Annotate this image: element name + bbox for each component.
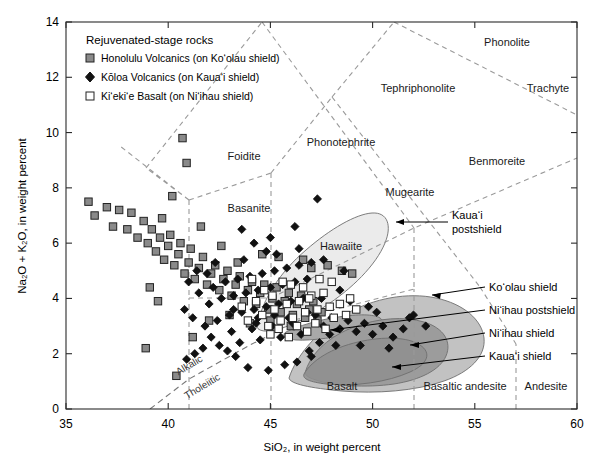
field-label-basalt: Basalt xyxy=(327,380,358,392)
data-point xyxy=(316,275,323,282)
x-tick-label: 55 xyxy=(468,417,482,431)
data-point xyxy=(128,209,135,216)
field-label-hawaiite: Hawaiite xyxy=(320,240,362,252)
figure-background xyxy=(0,0,592,471)
data-point xyxy=(187,245,194,252)
x-axis-title: SiO₂, in weight percent xyxy=(264,441,382,453)
data-point xyxy=(179,134,186,141)
field-label-basanite: Basanite xyxy=(228,202,271,214)
data-point xyxy=(165,242,172,249)
y-tick-label: 2 xyxy=(52,347,59,361)
data-point xyxy=(277,317,284,324)
data-point xyxy=(275,325,282,332)
field-label-phonolite: Phonolite xyxy=(484,36,530,48)
field-label-phonotephrite: Phonotephrite xyxy=(307,136,376,148)
data-point xyxy=(124,226,131,233)
data-point xyxy=(330,314,337,321)
data-point xyxy=(265,322,272,329)
legend-label-koloa-volcanics: Kōloa Volcanics (on Kaua‘i shield) xyxy=(101,71,259,83)
data-point xyxy=(115,206,122,213)
field-label-andesite: Andesite xyxy=(525,380,568,392)
y-tick-label: 14 xyxy=(46,15,60,29)
data-point xyxy=(152,248,159,255)
legend-title: Rejuvenated-stage rocks xyxy=(86,34,213,46)
x-tick-label: 40 xyxy=(162,417,176,431)
data-point xyxy=(146,284,153,291)
data-point xyxy=(303,328,310,335)
data-point xyxy=(185,259,192,266)
field-label-mugearite: Mugearite xyxy=(386,186,435,198)
data-point xyxy=(109,223,116,230)
data-point xyxy=(218,242,225,249)
data-point xyxy=(244,317,251,324)
data-point xyxy=(348,270,355,277)
field-label-tephriphonolite: Tephriphonolite xyxy=(381,82,456,94)
legend-label-kiekie-basalt: Ki‘eki‘e Basalt (on Ni‘ihau shield) xyxy=(101,90,253,102)
data-point xyxy=(283,300,290,307)
data-point xyxy=(91,212,98,219)
data-point xyxy=(336,300,343,307)
x-tick-label: 60 xyxy=(570,417,584,431)
data-point xyxy=(103,204,110,211)
data-point xyxy=(271,306,278,313)
data-point xyxy=(238,303,245,310)
field-label-trachyte: Trachyte xyxy=(527,82,569,94)
data-point xyxy=(160,256,167,263)
legend-label-honolulu-volcanics: Honolulu Volcanics (on Ko‘olau shield) xyxy=(101,52,280,64)
data-point xyxy=(148,226,155,233)
data-point xyxy=(269,292,276,299)
field-label-benmoreite: Benmoreite xyxy=(469,155,525,167)
y-axis-title: Na₂O + K₂O, in weight percent xyxy=(16,137,28,293)
annotation-kauai-postshield-line1: Kaua‘i xyxy=(452,209,483,221)
data-point xyxy=(158,215,165,222)
data-point xyxy=(287,281,294,288)
data-point xyxy=(156,234,163,241)
data-point xyxy=(171,262,178,269)
y-tick-label: 0 xyxy=(52,402,59,416)
data-point xyxy=(322,325,329,332)
data-point xyxy=(312,320,319,327)
data-point xyxy=(301,309,308,316)
data-point xyxy=(261,286,268,293)
data-point xyxy=(299,284,306,291)
data-point xyxy=(224,267,231,274)
legend-marker-kiekie-basalt xyxy=(86,92,94,100)
data-point xyxy=(293,322,300,329)
data-point xyxy=(285,289,292,296)
annotation-koolau-shield: Ko‘olau shield xyxy=(489,281,558,293)
data-point xyxy=(85,198,92,205)
data-point xyxy=(248,275,255,282)
data-point xyxy=(189,333,196,340)
tas-diagram-figure: 35404550556002468101214 SiO₂, in weight … xyxy=(0,0,592,471)
data-point xyxy=(289,314,296,321)
data-point xyxy=(175,251,182,258)
data-point xyxy=(177,239,184,246)
y-tick-label: 4 xyxy=(52,291,59,305)
data-point xyxy=(326,303,333,310)
data-point xyxy=(181,270,188,277)
annotation-kauai-postshield-line2: postshield xyxy=(452,223,502,235)
data-point xyxy=(140,217,147,224)
data-point xyxy=(295,297,302,304)
data-point xyxy=(267,331,274,338)
data-point xyxy=(346,295,353,302)
data-point xyxy=(197,223,204,230)
annotation-niihau-shield: Ni‘ihau shield xyxy=(489,327,554,339)
data-point xyxy=(328,278,335,285)
data-point xyxy=(154,297,161,304)
data-point xyxy=(144,239,151,246)
data-point xyxy=(314,306,321,313)
data-point xyxy=(167,231,174,238)
field-label-foidite: Foidite xyxy=(227,150,260,162)
data-point xyxy=(279,278,286,285)
legend-marker-honolulu-volcanics xyxy=(86,54,94,62)
data-point xyxy=(306,295,313,302)
data-point xyxy=(183,159,190,166)
data-point xyxy=(134,234,141,241)
y-tick-label: 12 xyxy=(46,70,60,84)
data-point xyxy=(169,192,176,199)
data-point xyxy=(259,311,266,318)
data-point xyxy=(353,306,360,313)
data-point xyxy=(320,289,327,296)
data-point xyxy=(199,253,206,260)
